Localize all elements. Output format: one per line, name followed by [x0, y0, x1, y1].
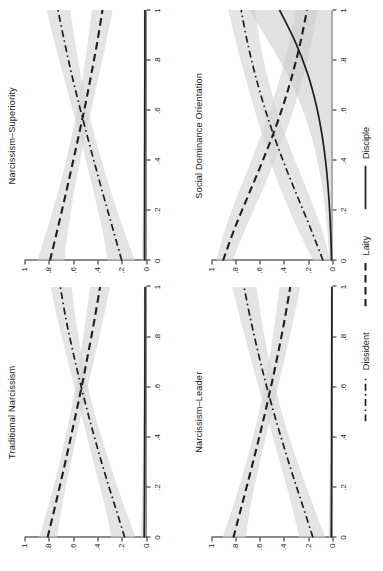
- figure-rotation-wrapper: Traditional Narcissism0.2.4.6.810.2.4.6.…: [0, 0, 383, 571]
- legend-item-disciple: Disciple: [360, 126, 370, 209]
- panel-top-left: Traditional Narcissism0.2.4.6.810.2.4.6.…: [6, 287, 163, 538]
- x-tick: [146, 209, 150, 210]
- y-tick-label: .2: [117, 267, 126, 274]
- y-tick-label: .2: [303, 543, 312, 550]
- y-tick-label: .4: [92, 543, 101, 550]
- panel-title: Narcissism–Superiority: [6, 10, 16, 261]
- y-tick: [308, 537, 309, 541]
- y-tick-label: 0: [328, 543, 337, 547]
- x-tick: [332, 286, 336, 287]
- figure-canvas: Traditional Narcissism0.2.4.6.810.2.4.6.…: [0, 0, 383, 571]
- panel-title: Narcissism–Leader: [193, 287, 203, 538]
- y-tick-label: 1: [206, 267, 215, 271]
- y-tick: [259, 261, 260, 265]
- x-tick-label: .4: [338, 157, 347, 164]
- x-tick-label: 0: [338, 535, 347, 539]
- x-tick: [332, 260, 336, 261]
- x-tick: [332, 209, 336, 210]
- y-tick: [283, 261, 284, 265]
- y-tick: [211, 261, 212, 265]
- x-tick-label: .2: [152, 207, 161, 214]
- x-tick-label: 0: [338, 258, 347, 262]
- y-tick: [235, 261, 236, 265]
- x-tick: [146, 386, 150, 387]
- x-tick-label: .6: [338, 383, 347, 390]
- y-tick: [308, 261, 309, 265]
- confidence-band-disciple: [248, 10, 332, 261]
- y-tick: [259, 537, 260, 541]
- legend-key-dashed-icon: [360, 262, 370, 306]
- x-tick-label: .6: [152, 107, 161, 114]
- legend-label: Disciple: [360, 126, 370, 158]
- x-tick: [146, 159, 150, 160]
- x-tick-label: .2: [338, 484, 347, 491]
- x-tick: [146, 260, 150, 261]
- y-tick: [211, 537, 212, 541]
- x-tick-label: 1: [338, 8, 347, 12]
- panel-title: Social Dominance Orientation: [193, 10, 203, 261]
- y-tick-label: 1: [20, 543, 29, 547]
- plot-area: 0.2.4.6.810.2.4.6.81: [211, 10, 333, 261]
- y-tick: [73, 537, 74, 541]
- y-tick: [97, 261, 98, 265]
- plot-area: 0.2.4.6.810.2.4.6.81: [24, 10, 146, 261]
- y-tick: [24, 261, 25, 265]
- x-tick: [146, 336, 150, 337]
- x-tick-label: 0: [152, 258, 161, 262]
- y-tick: [332, 261, 333, 265]
- x-tick: [332, 536, 336, 537]
- y-tick-label: .6: [68, 267, 77, 274]
- y-tick-label: .2: [117, 543, 126, 550]
- y-tick: [332, 537, 333, 541]
- x-tick-label: .6: [152, 383, 161, 390]
- x-tick: [146, 436, 150, 437]
- x-tick-label: 1: [152, 8, 161, 12]
- y-tick-label: 1: [206, 543, 215, 547]
- x-tick: [332, 386, 336, 387]
- y-tick-label: .8: [44, 543, 53, 550]
- y-tick-label: .8: [230, 267, 239, 274]
- x-tick: [146, 109, 150, 110]
- x-tick-label: .2: [338, 207, 347, 214]
- curve-layer: [211, 287, 333, 538]
- y-tick-label: 0: [141, 543, 150, 547]
- y-tick: [146, 261, 147, 265]
- x-tick-label: 1: [152, 284, 161, 288]
- x-tick: [332, 486, 336, 487]
- x-tick-label: .8: [338, 57, 347, 64]
- y-tick: [24, 537, 25, 541]
- y-tick: [97, 537, 98, 541]
- x-tick: [332, 336, 336, 337]
- y-tick: [235, 537, 236, 541]
- legend-key-dash-dot-icon: [360, 377, 370, 421]
- y-tick-label: .8: [44, 267, 53, 274]
- x-tick: [146, 9, 150, 10]
- y-tick-label: .6: [68, 543, 77, 550]
- y-tick-label: 0: [328, 267, 337, 271]
- x-tick: [332, 159, 336, 160]
- legend-item-dissident: Dissident: [360, 332, 370, 421]
- y-tick-label: .4: [279, 267, 288, 274]
- x-tick-label: .4: [338, 433, 347, 440]
- x-tick-label: 0: [152, 535, 161, 539]
- panel-title: Traditional Narcissism: [6, 287, 16, 538]
- x-tick-label: .2: [152, 484, 161, 491]
- y-tick-label: .6: [255, 543, 264, 550]
- legend-label: Laity: [360, 235, 370, 254]
- legend-label: Dissident: [360, 332, 370, 370]
- x-tick-label: .6: [338, 107, 347, 114]
- x-tick: [146, 286, 150, 287]
- x-tick: [332, 59, 336, 60]
- legend-key-solid-icon: [360, 165, 370, 209]
- y-tick-label: .8: [230, 543, 239, 550]
- x-tick-label: .8: [338, 333, 347, 340]
- x-tick-label: .4: [152, 433, 161, 440]
- panel-grid: Traditional Narcissism0.2.4.6.810.2.4.6.…: [0, 0, 383, 571]
- y-tick: [146, 537, 147, 541]
- curve-layer: [211, 10, 333, 261]
- x-tick: [332, 436, 336, 437]
- plot-area: 0.2.4.6.810.2.4.6.81: [211, 287, 333, 538]
- x-tick-label: .8: [152, 333, 161, 340]
- x-tick-label: 1: [338, 284, 347, 288]
- x-tick: [332, 9, 336, 10]
